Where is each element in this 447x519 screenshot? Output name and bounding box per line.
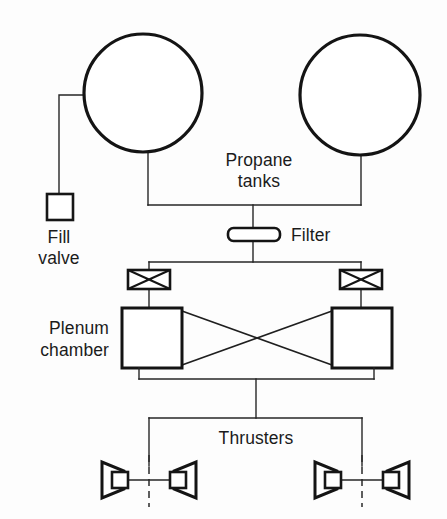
label-propane-tanks-line1: Propane — [226, 150, 293, 170]
isolation-valve-left — [128, 270, 170, 289]
thruster-nozzle-3 — [315, 462, 341, 498]
isolation-valve-right — [340, 270, 382, 289]
valve-feed-group — [149, 262, 361, 308]
label-fill-valve-line2: valve — [38, 248, 79, 268]
thruster-nozzle-2 — [170, 462, 196, 498]
propane-tank-left — [84, 34, 202, 152]
label-fill-valve-line1: Fill — [48, 227, 71, 247]
diagram-canvas: Propane tanks Fill valve Filter Plenum c… — [0, 0, 447, 519]
plenum-crossfeed-lines — [182, 311, 332, 365]
thruster-nozzle-1 — [102, 462, 128, 498]
propane-tank-right — [300, 35, 420, 155]
label-plenum-chamber-line2: chamber — [40, 340, 109, 360]
fill-valve — [47, 194, 73, 220]
fill-valve-line — [59, 95, 85, 194]
thruster-nozzle-4 — [383, 462, 409, 498]
plenum-box-left — [122, 308, 182, 368]
plenum-outlet-group — [139, 368, 374, 466]
plenum-box-right — [332, 308, 392, 368]
filter — [228, 228, 280, 241]
label-filter: Filter — [291, 225, 331, 245]
propane-feed-system-schematic: Propane tanks Fill valve Filter Plenum c… — [0, 0, 447, 519]
label-propane-tanks-line2: tanks — [238, 171, 280, 191]
label-plenum-chamber-line1: Plenum — [49, 318, 109, 338]
label-thrusters: Thrusters — [219, 428, 294, 448]
